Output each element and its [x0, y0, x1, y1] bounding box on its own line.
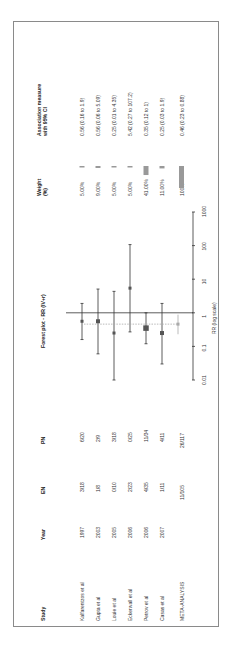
effect-marker	[143, 325, 149, 331]
axis-label: RR (log scale)	[211, 302, 217, 334]
effect-marker	[81, 320, 84, 323]
tick-label: 0.1	[201, 344, 207, 351]
tick-label: 100	[201, 242, 207, 250]
tick-label: 1000	[201, 206, 207, 217]
pooled-marker	[177, 323, 180, 326]
tick-label: 1	[201, 315, 207, 318]
forest-plot-frame: Study Year EN PN Forest plot - RR (IV+r)…	[13, 21, 219, 627]
weight-bar	[144, 166, 149, 175]
forest-plot-chart	[14, 22, 220, 628]
effect-marker	[129, 287, 132, 290]
weight-bar-pooled	[179, 166, 184, 188]
effect-marker	[96, 319, 100, 323]
effect-marker	[113, 332, 116, 335]
weight-bar	[128, 166, 133, 168]
weight-bar	[80, 166, 85, 168]
forest-plot-table: Study Year EN PN Forest plot - RR (IV+r)…	[14, 22, 220, 628]
weight-bar	[96, 166, 101, 168]
tick-label: 0.01	[201, 375, 207, 385]
weight-bar	[112, 166, 117, 168]
weight-bar	[160, 166, 165, 168]
effect-marker	[160, 331, 164, 335]
tick-label: 10	[201, 279, 207, 285]
